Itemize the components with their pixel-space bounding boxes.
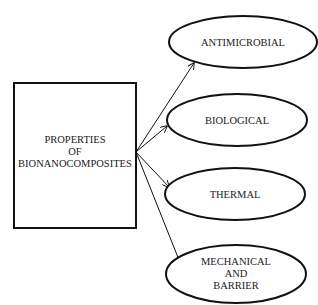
target-node-thermal: THERMAL <box>165 168 305 220</box>
label-mechanical-line-1: MECHANICAL <box>201 256 271 267</box>
source-label-line-3: BIONANOCOMPOSITES <box>18 158 132 169</box>
label-thermal: THERMAL <box>210 189 261 200</box>
source-label-line-1: PROPERTIES <box>44 134 105 145</box>
arrow-to-thermal <box>136 152 169 187</box>
diagram-canvas: PROPERTIES OF BIONANOCOMPOSITES ANTIMICR… <box>0 0 318 305</box>
target-node-antimicrobial: ANTIMICROBIAL <box>169 16 317 68</box>
arrow-to-biological <box>136 126 167 152</box>
target-node-mechanical-barrier: MECHANICAL AND BARRIER <box>166 245 306 303</box>
target-node-biological: BIOLOGICAL <box>167 94 307 146</box>
connectors <box>136 63 194 265</box>
label-biological: BIOLOGICAL <box>205 115 269 126</box>
label-antimicrobial: ANTIMICROBIAL <box>201 37 285 48</box>
source-label-line-2: OF <box>68 146 82 157</box>
label-mechanical-line-3: BARRIER <box>213 280 259 291</box>
label-mechanical-line-2: AND <box>225 268 248 279</box>
arrow-to-mechanical-barrier <box>136 152 181 265</box>
source-node: PROPERTIES OF BIONANOCOMPOSITES <box>14 83 136 228</box>
